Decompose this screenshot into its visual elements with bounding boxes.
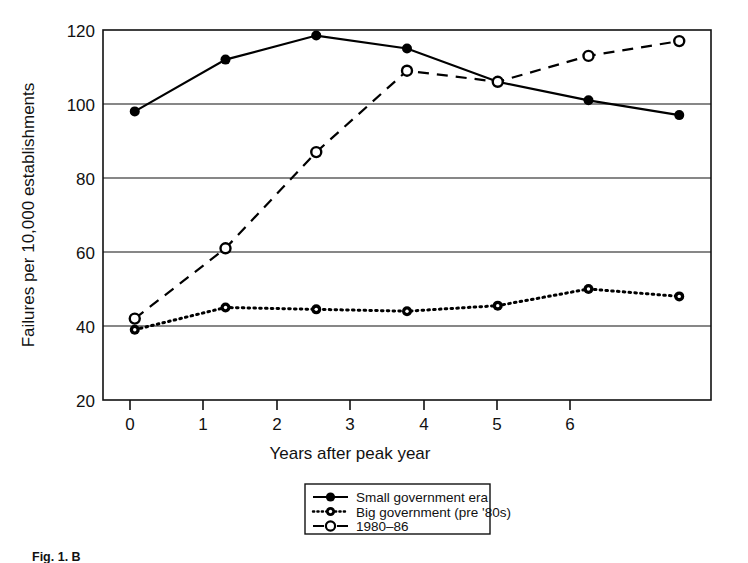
x-tick-label-3: 3 [345, 415, 354, 434]
data-point-inner-dot [405, 310, 408, 313]
x-tick-label-1: 1 [198, 415, 207, 434]
y-tick-label-40: 40 [76, 318, 95, 337]
x-axis-ticks [130, 400, 570, 410]
plot-border [103, 30, 711, 400]
data-point-filled [583, 95, 593, 105]
x-tick-label-2: 2 [272, 415, 281, 434]
data-point-open [674, 36, 684, 46]
data-point-filled [221, 55, 231, 65]
plot-frame [103, 30, 711, 400]
legend-label-1: Big government (pre '80s) [356, 505, 511, 520]
data-point-inner-dot [315, 308, 318, 311]
data-point-open [221, 243, 231, 253]
legend-marker-filled-circle [326, 492, 335, 501]
data-point-open [130, 314, 140, 324]
x-tick-label-6: 6 [565, 415, 574, 434]
x-axis-labels: 0 1 2 3 4 5 6 [125, 415, 574, 434]
series-big-government-pre-80s [130, 284, 684, 335]
x-tick-label-5: 5 [492, 415, 501, 434]
y-tick-label-80: 80 [76, 170, 95, 189]
series-line-1980-86 [135, 41, 679, 319]
figure-container: 120 100 80 60 40 20 Failures per 10,000 … [0, 0, 748, 563]
legend-label-0: Small government era [356, 490, 489, 505]
data-point-open [402, 66, 412, 76]
y-axis-title: Failures per 10,000 establishments [19, 83, 38, 348]
data-point-inner-dot [133, 328, 136, 331]
data-point-open [583, 51, 593, 61]
legend-marker-inner-dot [329, 510, 332, 513]
legend: Small government era Big government (pre… [305, 484, 511, 534]
data-point-inner-dot [224, 306, 227, 309]
data-point-inner-dot [496, 304, 499, 307]
data-point-filled [130, 106, 140, 116]
x-tick-label-0: 0 [125, 415, 134, 434]
legend-label-2: 1980–86 [356, 519, 409, 534]
data-point-filled [674, 110, 684, 120]
legend-marker-open-circle [326, 521, 335, 530]
x-axis-title: Years after peak year [270, 444, 431, 463]
series-1980-86 [130, 36, 684, 324]
line-chart: 120 100 80 60 40 20 Failures per 10,000 … [0, 0, 748, 563]
y-tick-label-20: 20 [76, 392, 95, 411]
data-point-open [311, 147, 321, 157]
data-point-inner-dot [587, 287, 590, 290]
data-series-layer [130, 31, 684, 335]
x-tick-label-4: 4 [419, 415, 428, 434]
y-axis: 120 100 80 60 40 20 [67, 22, 95, 411]
y-tick-label-60: 60 [76, 244, 95, 263]
data-point-filled [311, 31, 321, 41]
data-point-inner-dot [678, 295, 681, 298]
data-point-open [493, 77, 503, 87]
data-point-filled [402, 44, 412, 54]
y-tick-label-100: 100 [67, 96, 95, 115]
y-tick-label-120: 120 [67, 22, 95, 41]
figure-caption: Fig. 1. B [32, 550, 81, 563]
